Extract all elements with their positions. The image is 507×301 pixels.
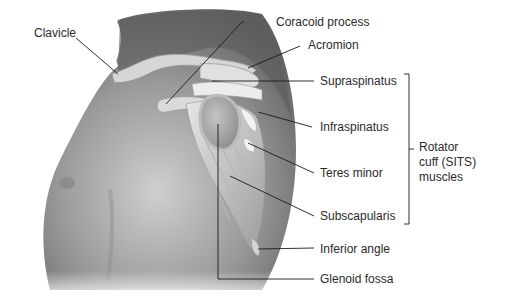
glenoid-fossa — [200, 95, 240, 150]
label-glenoid-fossa: Glenoid fossa — [320, 272, 393, 286]
label-acromion: Acromion — [308, 38, 359, 52]
label-subscapularis: Subscapularis — [320, 209, 395, 223]
label-coracoid-process: Coracoid process — [276, 15, 369, 29]
label-supraspinatus: Supraspinatus — [320, 74, 397, 88]
group-line-3: muscles — [419, 170, 499, 185]
label-infraspinatus: Infraspinatus — [320, 120, 389, 134]
label-rotator-cuff-group: Rotator cuff (SITS) muscles — [419, 140, 499, 185]
label-clavicle: Clavicle — [34, 26, 76, 40]
shoulder-anatomy-diagram: Clavicle Coracoid process Acromion Supra… — [0, 0, 507, 301]
nipple — [59, 177, 75, 189]
group-line-2: cuff (SITS) — [419, 155, 499, 170]
label-inferior-angle: Inferior angle — [320, 242, 390, 256]
group-line-1: Rotator — [419, 140, 499, 155]
label-teres-minor: Teres minor — [320, 166, 383, 180]
